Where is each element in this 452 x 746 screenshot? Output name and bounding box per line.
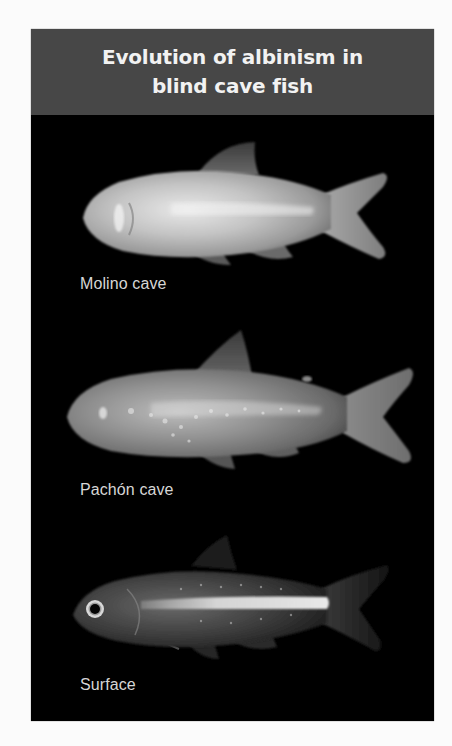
molino-cave-fish [83, 142, 387, 265]
figure-title-line-1: Evolution of albinism in [31, 43, 434, 72]
figure-title-line-2: blind cave fish [31, 72, 434, 101]
figure-panel: Evolution of albinism in blind cave fish [31, 29, 434, 721]
pachon-cave-fish [67, 330, 413, 469]
fish-photographs [31, 115, 434, 721]
photo-area: Molino cave Pachón cave Surface [31, 115, 434, 721]
specimen-label-molino: Molino cave [80, 275, 166, 293]
specimen-label-surface: Surface [80, 676, 136, 694]
specimen-label-pachon: Pachón cave [80, 481, 174, 499]
eye-icon [86, 600, 104, 618]
surface-fish [73, 535, 389, 659]
figure-title: Evolution of albinism in blind cave fish [31, 29, 434, 115]
